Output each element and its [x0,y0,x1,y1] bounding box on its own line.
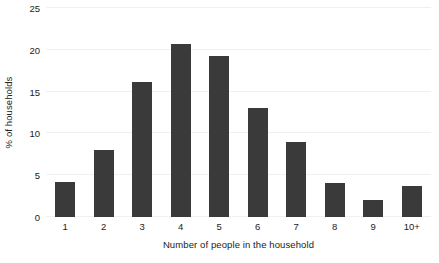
bar-group [277,8,316,217]
bar-group [393,8,432,217]
bar [286,142,306,217]
x-axis-title: Number of people in the household [46,239,431,250]
x-axis-tick-label: 2 [85,221,124,232]
bar [55,182,75,217]
bar-group [123,8,162,217]
y-axis-tick-labels: 0510152025 [14,0,40,225]
bar-group [46,8,85,217]
x-axis-tick-label: 10+ [393,221,432,232]
y-axis-tick-label: 0 [14,212,40,223]
x-axis-tick-label: 9 [354,221,393,232]
y-axis-tick-label: 15 [14,86,40,97]
bar-chart-figure: % of households 0510152025 12345678910+ … [0,0,439,263]
y-axis-tick-label: 20 [14,44,40,55]
bar-group [316,8,355,217]
bar-group [239,8,278,217]
bar-group [354,8,393,217]
y-axis-title-text: % of households [4,77,15,149]
bar [402,186,422,217]
bar-group [85,8,124,217]
y-axis-tick-label: 10 [14,128,40,139]
bar [94,150,114,217]
bar [325,183,345,217]
bars-layer [46,8,431,217]
x-axis-tick-label: 1 [46,221,85,232]
x-axis-tick-label: 8 [316,221,355,232]
x-axis-tick-labels: 12345678910+ [46,221,431,237]
bar [209,56,229,217]
bar [132,82,152,217]
y-axis-tick-label: 25 [14,3,40,14]
bar-group [200,8,239,217]
x-axis-tick-label: 6 [239,221,278,232]
bar [363,200,383,217]
x-axis-tick-label: 3 [123,221,162,232]
plot-area [46,8,431,217]
y-axis-tick-label: 5 [14,170,40,181]
bar [248,108,268,217]
x-axis-tick-label: 5 [200,221,239,232]
x-axis-tick-label: 4 [162,221,201,232]
bar-group [162,8,201,217]
x-axis-tick-label: 7 [277,221,316,232]
bar [171,44,191,217]
